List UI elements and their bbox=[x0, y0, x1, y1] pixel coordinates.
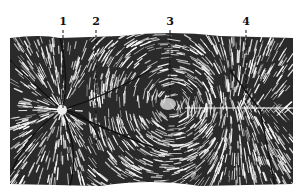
label-4: 4 bbox=[242, 16, 250, 27]
nerve-fiber-illustration bbox=[0, 0, 301, 195]
retina-fiber-diagram: 1 2 3 4 bbox=[0, 0, 301, 195]
label-3: 3 bbox=[166, 16, 174, 27]
label-1: 1 bbox=[59, 16, 67, 27]
label-2: 2 bbox=[92, 16, 100, 27]
